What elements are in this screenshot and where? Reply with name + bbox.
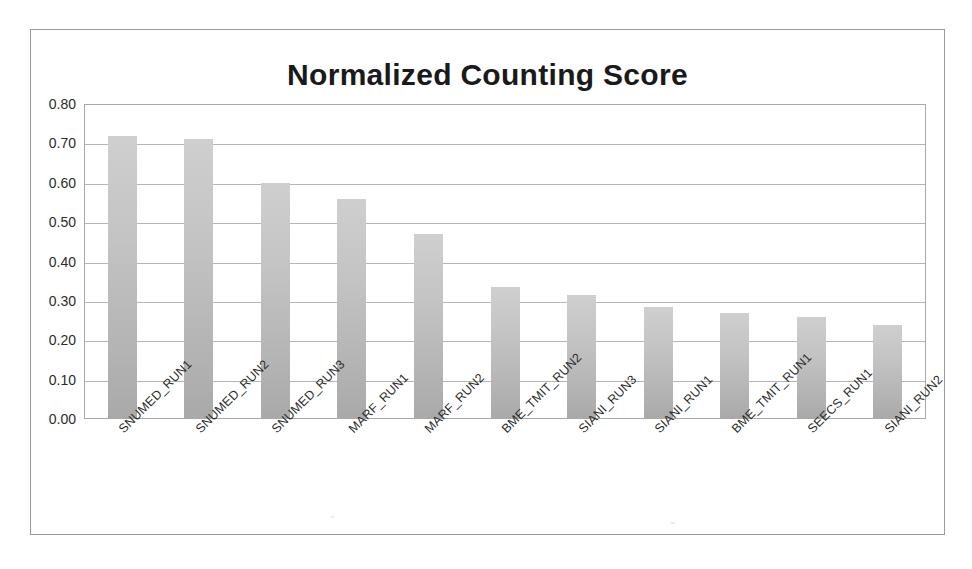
y-tick-label: 0.40 — [49, 254, 76, 270]
chart-title: Normalized Counting Score — [31, 58, 944, 92]
y-tick-label: 0.50 — [49, 214, 76, 230]
y-axis: 0.800.700.600.500.400.300.200.100.00 — [31, 104, 80, 419]
y-tick-label: 0.20 — [49, 332, 76, 348]
bar — [491, 287, 520, 419]
y-tick-label: 0.10 — [49, 372, 76, 388]
y-tick-label: 0.00 — [49, 411, 76, 427]
bar — [108, 136, 137, 420]
scan-artifact — [331, 516, 334, 518]
bar — [720, 313, 749, 419]
scan-artifact — [671, 522, 675, 524]
bar — [644, 307, 673, 419]
chart-frame: Normalized Counting Score 0.800.700.600.… — [30, 29, 945, 535]
bar — [184, 139, 213, 419]
bar — [337, 199, 366, 420]
y-tick-label: 0.80 — [49, 96, 76, 112]
x-axis: SNUMED_RUN1SNUMED_RUN2SNUMED_RUN3MARF_RU… — [84, 420, 926, 532]
y-tick-label: 0.60 — [49, 175, 76, 191]
y-tick-label: 0.30 — [49, 293, 76, 309]
bar — [261, 183, 290, 419]
bar — [414, 234, 443, 419]
y-tick-label: 0.70 — [49, 135, 76, 151]
bar — [873, 325, 902, 420]
